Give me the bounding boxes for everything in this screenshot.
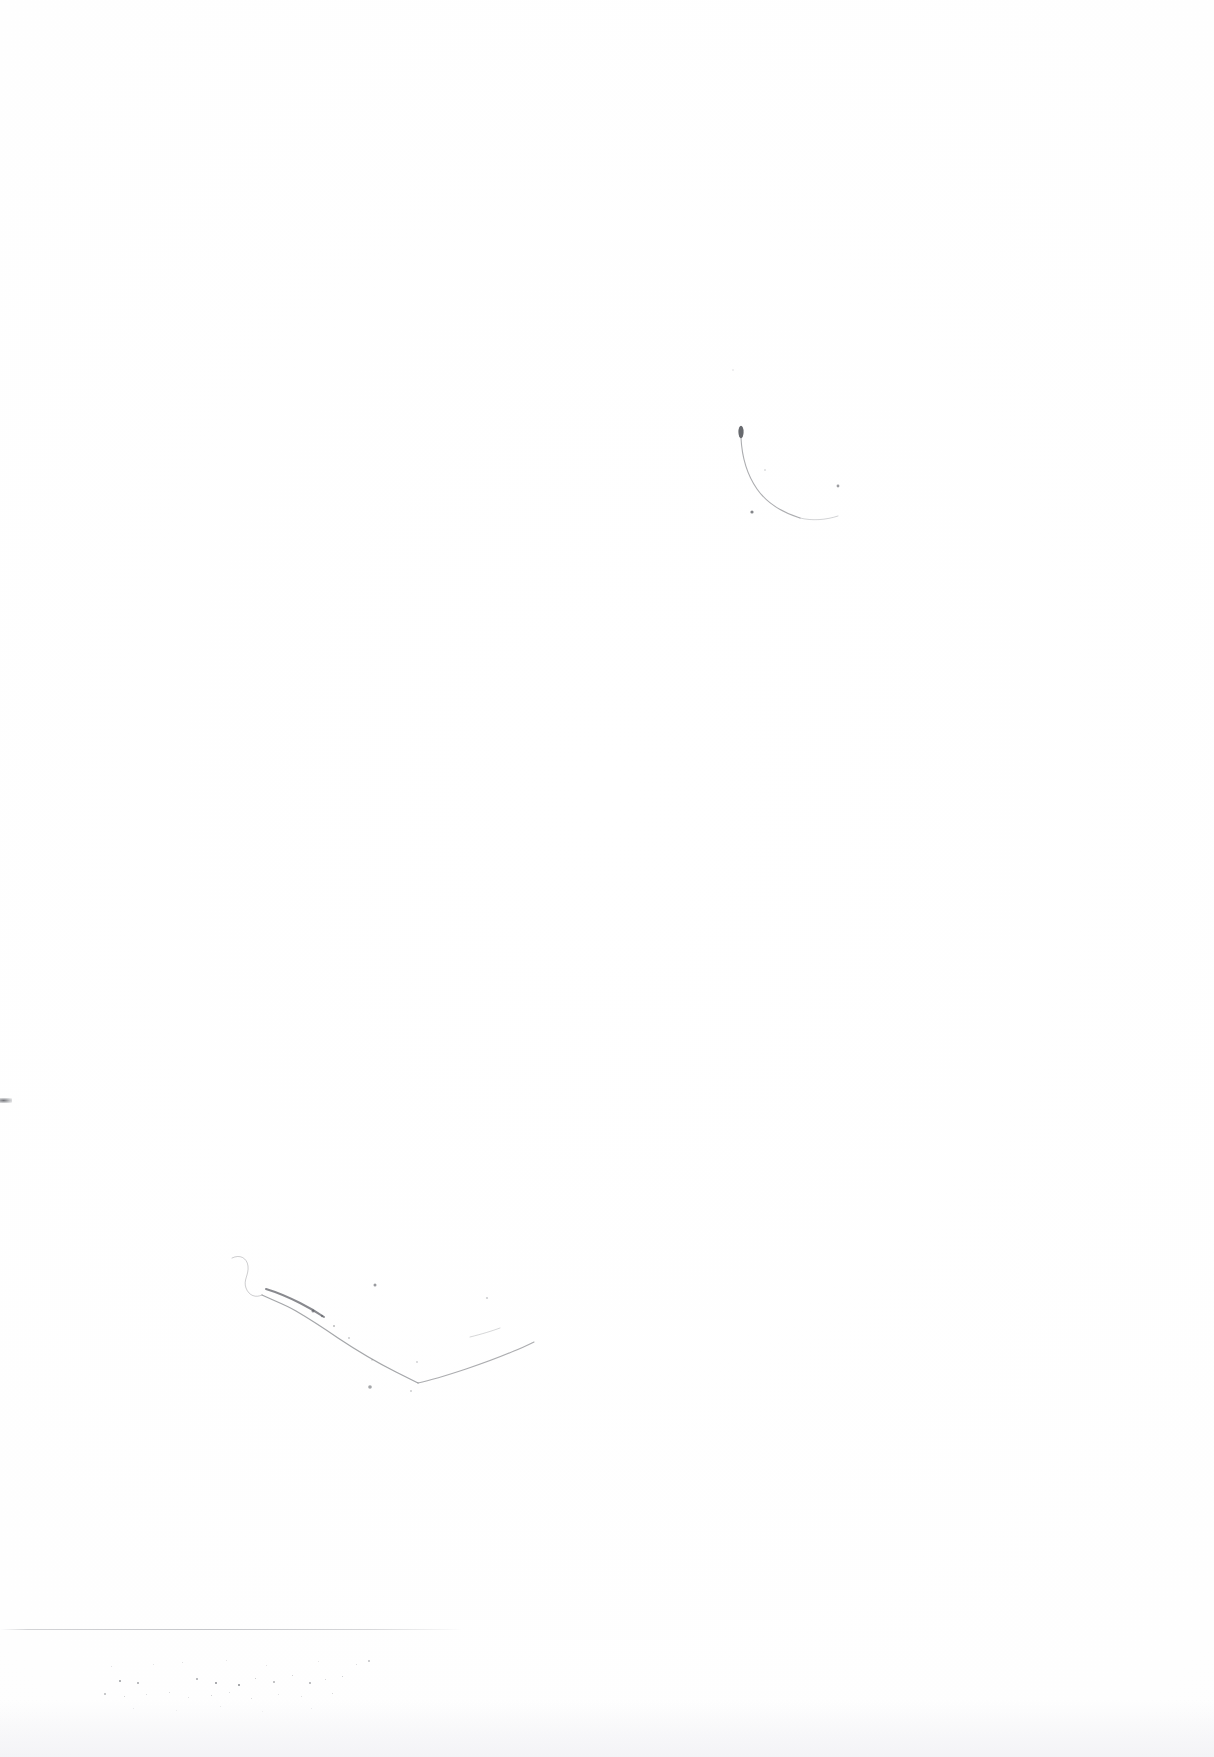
ink-blob [738,426,743,438]
dust-speck [182,1662,183,1663]
dust-speck [215,1682,217,1684]
dust-speck [278,1694,279,1695]
ink-stroke-rising-arm [418,1342,534,1383]
dust-speck [318,1661,319,1662]
dust-speck [325,1679,326,1680]
ink-speck [486,1297,488,1299]
dust-speck [104,1693,106,1695]
ink-stroke-dark-segment [266,1289,324,1317]
ink-speck [321,1315,323,1317]
ink-stroke-hook [232,1256,262,1296]
upper-right-stroke-layer [0,0,1214,1757]
dust-speck [238,1684,240,1686]
dust-speck [266,1665,267,1666]
dust-speck [137,1682,139,1684]
dust-speck [111,1666,112,1667]
scanned-page [0,0,1214,1757]
left-edge-speck [0,1098,12,1103]
dust-speck [356,1664,357,1665]
dust-speck [169,1692,170,1693]
ink-stroke-main [741,438,800,518]
bottom-horizontal-rule [0,1629,462,1630]
dust-speck [309,1682,311,1684]
v-shaped-ink-stroke [232,1256,534,1392]
ink-speck [410,1390,412,1392]
ink-speck [348,1337,350,1339]
ink-speck [416,1361,418,1363]
ink-stroke-descending-arm [262,1295,418,1383]
dust-speck [188,1697,189,1698]
ink-speck [371,1359,373,1361]
dust-speck [251,1698,252,1699]
ink-speck [368,1385,372,1389]
dust-speck [332,1693,333,1694]
ink-speck [764,469,766,471]
ink-speck [732,369,734,371]
dust-speck [229,1692,230,1693]
ink-speck [312,1310,315,1313]
dust-speck [292,1675,293,1676]
dust-speck [301,1696,302,1697]
dust-speck [342,1676,343,1677]
lower-left-stroke-layer [0,0,1214,1757]
dust-speck [226,1660,227,1661]
ink-speck [837,485,840,488]
dust-speck [119,1680,121,1682]
dust-speck [368,1660,370,1662]
dust-speck [124,1696,125,1697]
ink-stroke-rising-arm-tip [470,1328,500,1337]
paper-background [0,0,1214,1757]
curved-ink-stroke [732,369,839,520]
ink-speck [750,510,753,513]
dust-speck [196,1678,198,1680]
ink-speck [333,1325,335,1327]
dust-speck [211,1695,212,1696]
dust-speck [146,1694,147,1695]
ink-speck [374,1284,377,1287]
dust-speck [255,1678,256,1679]
dust-speck [273,1681,275,1683]
dust-speck [153,1664,154,1665]
bottom-wash-band [0,1700,1214,1757]
ink-stroke-tail [800,516,838,520]
